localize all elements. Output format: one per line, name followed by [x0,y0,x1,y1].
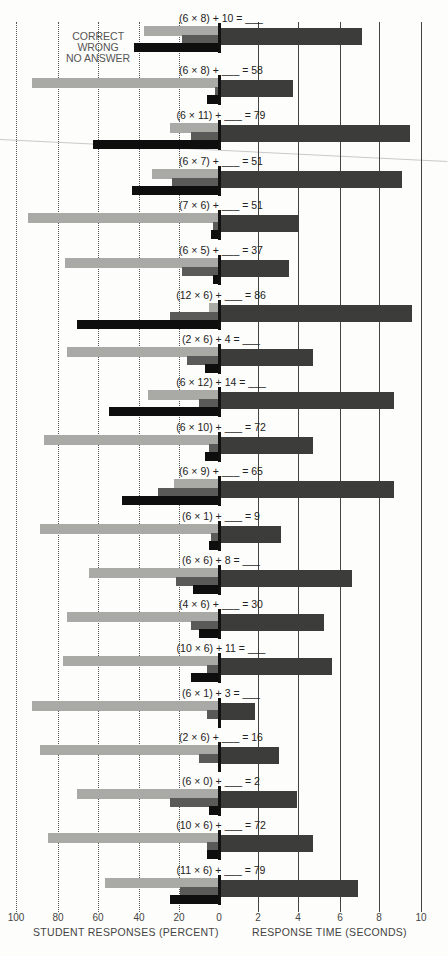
tick-label: 6 [337,912,343,923]
response-time-bar [219,171,402,188]
gridline [298,22,299,912]
response-time-bar [219,835,313,852]
response-chart: (6 × 8) + 10 = ___(6 × 8) + ___ = 58(6 ×… [0,0,448,956]
gridline [379,22,380,912]
response-time-bar [219,437,313,454]
problem-label: (4 × 6) + ___ = 30 [179,598,263,610]
zero-axis-segment [218,23,221,53]
response-time-bar [219,481,394,498]
no-answer-bar [93,140,219,149]
no-answer-bar [132,186,219,195]
response-time-bar [219,880,358,897]
zero-axis-segment [218,786,221,816]
no-answer-bar [122,496,219,505]
correct-bar [32,78,219,88]
response-time-bar [219,305,412,322]
problem-label: (6 × 1) + 3 = ___ [182,687,260,699]
no-answer-bar [205,452,219,461]
response-time-bar [219,215,299,232]
problem-label: (10 × 6) + ___ = 72 [176,819,266,831]
problem-label: (6 × 1) + ___ = 9 [182,510,260,522]
gridline [16,22,17,912]
zero-axis-segment [218,565,221,595]
problem-label: (2 × 6) + ___ = 16 [179,731,263,743]
problem-label: (2 × 6) + 4 = ___ [182,333,260,345]
problem-label: (6 × 6) + 8 = ___ [182,554,260,566]
no-answer-bar [77,320,219,329]
problem-label: (6 × 8) + 10 = ___ [179,12,263,24]
gridline [139,22,140,912]
right-axis-title: RESPONSE TIME (SECONDS) [252,926,407,938]
tick-label: 8 [376,912,382,923]
no-answer-bar [109,407,219,416]
legend: CORRECT WRONG NO ANSWER [66,31,130,64]
problem-label: (6 × 11) + ___ = 79 [177,109,266,121]
gridline [58,22,59,912]
zero-axis-segment [218,75,221,105]
problem-label: (6 × 0) + ___ = 2 [182,775,260,787]
legend-no-answer: NO ANSWER [66,53,130,64]
problem-label: (6 × 5) + ___ = 37 [179,244,263,256]
zero-axis-segment [218,120,221,150]
tick-label: 2 [255,912,261,923]
tick-label: 10 [415,912,426,923]
gridline [421,22,422,912]
wrong-bar [199,754,219,763]
response-time-bar [219,791,297,808]
response-time-bar [219,570,352,587]
tick-label: 40 [133,912,144,923]
correct-bar [40,524,219,534]
gridline [340,22,341,912]
zero-axis-segment [218,875,221,905]
response-time-bar [219,658,332,675]
gridline [98,22,99,912]
response-time-bar [219,703,255,720]
no-answer-bar [191,673,219,682]
correct-bar [48,833,219,843]
problem-label: (6 × 9) + ___ = 65 [179,465,263,477]
tick-label: 4 [295,912,301,923]
no-answer-bar [170,895,219,904]
response-time-bar [219,349,313,366]
zero-axis-segment [218,255,221,285]
correct-bar [63,656,219,666]
zero-axis-segment [218,166,221,196]
correct-bar [44,435,219,445]
zero-axis-segment [218,521,221,551]
correct-bar [40,745,219,755]
problem-label: (11 × 6) + ___ = 79 [177,864,266,876]
tick-label: 0 [216,912,222,923]
response-time-bar [219,125,410,142]
response-time-bar [219,392,394,409]
zero-axis-segment [218,830,221,860]
response-time-bar [219,614,324,631]
problem-label: (10 × 6) + 11 = ___ [177,642,266,654]
no-answer-bar [205,364,219,373]
tick-label: 80 [52,912,63,923]
zero-axis-segment [218,387,221,417]
tick-label: 20 [173,912,184,923]
zero-axis-segment [218,344,221,374]
correct-bar [32,701,219,711]
problem-label: (12 × 6) + ___ = 86 [176,289,266,301]
zero-axis-segment [218,476,221,506]
response-time-bar [219,260,289,277]
no-answer-bar [193,585,219,594]
zero-axis-segment [218,653,221,683]
zero-axis-segment [218,742,221,772]
left-axis-title: STUDENT RESPONSES (PERCENT) [33,926,219,938]
tick-label: 100 [8,912,25,923]
zero-axis-segment [218,698,221,728]
response-time-bar [219,28,362,45]
zero-axis-segment [218,432,221,462]
no-answer-bar [134,43,219,52]
no-answer-bar [199,629,219,638]
problem-label: (7 × 6) + ___ = 51 [179,199,263,211]
zero-axis-segment [218,300,221,330]
problem-label: (6 × 10) + ___ = 72 [176,421,266,433]
response-time-bar [219,747,279,764]
response-time-bar [219,526,281,543]
zero-axis-segment [218,609,221,639]
tick-label: 60 [92,912,103,923]
problem-label: (6 × 12) + 14 = ___ [176,376,266,388]
